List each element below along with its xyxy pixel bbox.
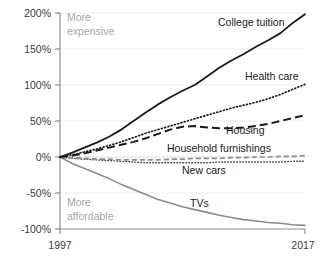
y-axis-label-200: 200% <box>24 7 51 19</box>
series-label-college-tuition: College tuition <box>218 16 285 28</box>
chart-container: 200% 150% 100% 50% 0% -50% -100% 1997 20… <box>0 0 325 257</box>
annotation-more-expensive-line1: More <box>67 11 91 23</box>
x-axis-label-start: 1997 <box>48 239 72 251</box>
annotation-more-affordable-line2: affordable <box>67 210 114 222</box>
annotation-more-affordable-line1: More <box>67 196 91 208</box>
line-chart: 200% 150% 100% 50% 0% -50% -100% 1997 20… <box>0 0 325 257</box>
y-axis-label-0: 0% <box>36 151 51 163</box>
series-label-housing: Housing <box>226 124 265 136</box>
y-axis-label-50: 50% <box>30 115 51 127</box>
y-axis-label-neg100: -100% <box>21 223 51 235</box>
annotation-more-expensive-line2: expensive <box>67 25 114 37</box>
series-label-tvs: TVs <box>190 197 209 209</box>
series-line-household-furnishings <box>60 156 305 160</box>
series-label-household-furnishings: Household furnishings <box>167 142 271 154</box>
y-axis-label-neg50: -50% <box>26 187 51 199</box>
x-axis-label-end: 2017 <box>291 239 315 251</box>
series-label-health-care: Health care <box>245 70 299 82</box>
y-axis-label-150: 150% <box>24 43 51 55</box>
y-axis-label-100: 100% <box>24 79 51 91</box>
series-label-new-cars: New cars <box>182 164 226 176</box>
